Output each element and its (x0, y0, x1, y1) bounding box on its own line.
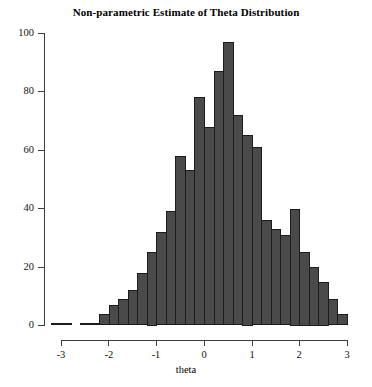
histogram-bars (0, 0, 372, 387)
histogram-bar (61, 323, 72, 326)
plot-area: 0 20 40 60 80 100 -3 -2 -1 0 1 2 3 theta (0, 0, 372, 387)
histogram-bar (337, 314, 348, 326)
chart-root: Non-parametric Estimate of Theta Distrib… (0, 0, 372, 387)
